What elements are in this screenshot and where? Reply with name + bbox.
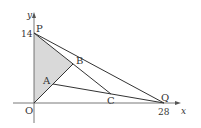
x-axis-label: x xyxy=(181,106,186,116)
y-axis-label: y xyxy=(26,10,33,20)
point-label-q: Q xyxy=(161,92,169,103)
x-axis-arrow-icon xyxy=(175,101,181,105)
point-label-o: O xyxy=(25,105,33,116)
point-label-p: P xyxy=(36,23,43,34)
y-axis-arrow-icon xyxy=(32,12,36,18)
point-label-c: C xyxy=(107,95,115,106)
geometry-figure: y x 14 28 P B A O C Q xyxy=(0,0,201,128)
point-label-a: A xyxy=(42,75,51,86)
x-tick-label: 28 xyxy=(158,107,170,117)
point-label-b: B xyxy=(76,55,83,66)
y-tick-label: 14 xyxy=(21,29,33,39)
